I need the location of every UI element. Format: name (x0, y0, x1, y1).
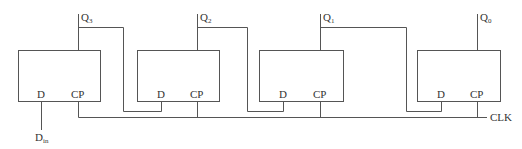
clock-bus-wire (79, 102, 488, 118)
shift-register-diagram: Q3 Q2 Q1 Q0 D CP D CP D CP D CP Din CLK (0, 0, 522, 149)
ff0-d-label: D (437, 88, 445, 100)
ff2-cp-label: CP (190, 88, 203, 100)
q3-label: Q3 (81, 11, 93, 25)
q1-label: Q1 (323, 11, 335, 25)
q0-label: Q0 (480, 11, 492, 25)
ff1-cp-label: CP (313, 88, 326, 100)
ff3-d-label: D (37, 88, 45, 100)
ff3-cp-label: CP (71, 88, 84, 100)
flipflop-2-box (138, 51, 220, 102)
q2-label: Q2 (200, 11, 212, 25)
ff1-d-label: D (279, 88, 287, 100)
flipflop-3-box (19, 51, 101, 102)
flipflop-0-box (418, 51, 501, 102)
flipflop-1-box (260, 51, 344, 102)
ff2-d-label: D (157, 88, 165, 100)
clock-label: CLK (490, 111, 512, 123)
data-input-label: Din (35, 131, 49, 145)
ff0-cp-label: CP (470, 88, 483, 100)
